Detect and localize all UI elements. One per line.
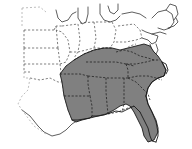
map-figure bbox=[0, 0, 192, 149]
us-map-svg bbox=[0, 0, 192, 149]
